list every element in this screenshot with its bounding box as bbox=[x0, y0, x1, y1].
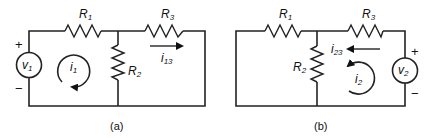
label-b-r3: R3 bbox=[362, 7, 376, 22]
source-a-minus: − bbox=[15, 81, 23, 96]
label-b-r1: R1 bbox=[279, 7, 292, 22]
panel-a: v1 + − R1 R3 R2 i1 i13 (a) bbox=[15, 7, 205, 132]
source-b-label: v2 bbox=[398, 63, 409, 78]
resistor-a-r3 bbox=[145, 25, 183, 37]
circuit-figure: v1 + − R1 R3 R2 i1 i13 (a) v2 + − bbox=[0, 0, 431, 138]
branch-current-label-a: i13 bbox=[161, 51, 173, 66]
caption-a: (a) bbox=[110, 120, 123, 132]
caption-b: (b) bbox=[314, 120, 327, 132]
source-b-plus: + bbox=[411, 44, 419, 59]
resistor-b-r2 bbox=[311, 46, 323, 82]
source-b-minus: − bbox=[411, 86, 419, 101]
wire-a-loop bbox=[29, 31, 205, 106]
resistor-b-r1 bbox=[265, 25, 301, 37]
source-a-label: v1 bbox=[22, 58, 32, 73]
wire-b-top-right bbox=[383, 31, 405, 58]
loop-current-label-b: i2 bbox=[355, 72, 363, 87]
label-a-r1: R1 bbox=[79, 7, 92, 22]
wire-a-top-left bbox=[29, 31, 65, 53]
resistor-a-r2 bbox=[112, 45, 124, 80]
loop-current-label-a: i1 bbox=[70, 60, 77, 75]
resistor-a-r1 bbox=[65, 25, 101, 37]
resistor-b-r3 bbox=[348, 25, 383, 37]
label-a-r3: R3 bbox=[161, 7, 175, 22]
label-b-r2: R2 bbox=[293, 60, 307, 75]
wire-b-loop bbox=[236, 31, 405, 106]
panel-b: v2 + − R1 R3 R2 i2 i23 (b) bbox=[236, 7, 419, 132]
source-a-plus: + bbox=[15, 37, 23, 52]
label-a-r2: R2 bbox=[128, 64, 142, 79]
branch-current-label-b: i23 bbox=[331, 42, 343, 57]
